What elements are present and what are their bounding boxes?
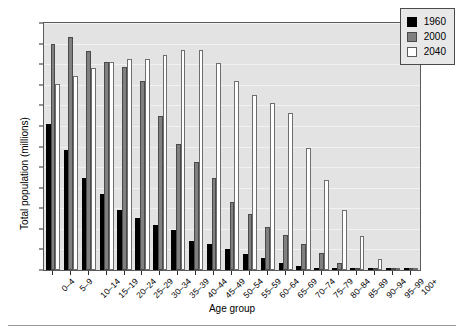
- bar-2040-55-59: [252, 95, 257, 270]
- bar-group: [277, 23, 295, 270]
- bar-2040-70-74: [306, 148, 311, 270]
- plot-area: [43, 22, 421, 271]
- x-tick-label: 35–39: [188, 277, 211, 300]
- bar-series-container: [44, 23, 420, 270]
- bar-2040-95-99: [396, 268, 401, 270]
- x-tick-mark: [52, 271, 53, 275]
- legend-label: 2000: [424, 32, 446, 42]
- x-tick-mark: [392, 271, 393, 275]
- bar-group: [366, 23, 384, 270]
- bar-group: [223, 23, 241, 270]
- bar-group: [348, 23, 366, 270]
- chart-page: Total population (millions) 012345678910…: [0, 0, 464, 331]
- bar-2040-30-34: [163, 55, 168, 270]
- bar-2040-65-69: [288, 113, 293, 270]
- population-by-age-group-chart: Total population (millions) 012345678910…: [0, 0, 464, 331]
- x-tick-mark: [141, 271, 142, 275]
- bar-2040-75-79: [324, 180, 329, 270]
- x-tick-mark: [70, 271, 71, 275]
- bar-2040-90-94: [378, 259, 383, 270]
- x-tick-label: 90–94: [385, 277, 408, 300]
- legend-item-2000[interactable]: 2000: [407, 29, 446, 44]
- x-tick-mark: [195, 271, 196, 275]
- x-tick-mark: [177, 271, 178, 275]
- x-tick-label: 10–14: [99, 277, 122, 300]
- bottom-divider: [8, 325, 456, 326]
- bar-group: [313, 23, 331, 270]
- x-tick-mark: [106, 271, 107, 275]
- x-tick-label: 5–9: [78, 277, 94, 293]
- bar-group: [259, 23, 277, 270]
- bar-2040-80-84: [342, 210, 347, 270]
- x-tick-mark: [303, 271, 304, 275]
- series-2040-swatch: [407, 47, 417, 57]
- x-tick-label: 0–4: [60, 277, 76, 293]
- bar-2040-10-14: [91, 68, 96, 270]
- x-tick-mark: [374, 271, 375, 275]
- x-tick-mark: [356, 271, 357, 275]
- legend-item-2040[interactable]: 2040: [407, 44, 446, 59]
- bar-2040-20-24: [127, 59, 132, 270]
- x-tick-mark: [88, 271, 89, 275]
- legend-label: 2040: [424, 47, 446, 57]
- bar-group: [205, 23, 223, 270]
- legend-label: 1960: [424, 17, 446, 27]
- bar-group: [80, 23, 98, 270]
- bar-2040-50-54: [234, 81, 239, 270]
- bar-2040-60-64: [270, 103, 275, 270]
- series-2000-swatch: [407, 32, 417, 42]
- x-tick-mark: [231, 271, 232, 275]
- bar-2040-45-49: [216, 63, 221, 270]
- bar-2040-35-39: [181, 50, 186, 270]
- bar-group: [295, 23, 313, 270]
- bar-group: [134, 23, 152, 270]
- bar-group: [330, 23, 348, 270]
- x-axis: 0–45–910–1415–1920–2425–2930–3435–3940–4…: [43, 271, 421, 326]
- x-tick-mark: [321, 271, 322, 275]
- legend: 196020002040: [400, 8, 455, 65]
- x-tick-mark: [213, 271, 214, 275]
- bar-2040-5-9: [73, 76, 78, 271]
- series-1960-swatch: [407, 17, 417, 27]
- bar-group: [44, 23, 62, 270]
- bar-2040-25-29: [145, 59, 150, 270]
- bar-group: [187, 23, 205, 270]
- bar-group: [151, 23, 169, 270]
- bar-2040-40-44: [199, 50, 204, 270]
- bar-2040-15-19: [109, 62, 114, 270]
- x-tick-mark: [338, 271, 339, 275]
- bar-2040-85-89: [360, 236, 365, 270]
- x-tick-mark: [267, 271, 268, 275]
- y-axis-label: Total population (millions): [19, 64, 30, 284]
- x-tick-mark: [159, 271, 160, 275]
- bar-group: [169, 23, 187, 270]
- x-tick-mark: [124, 271, 125, 275]
- y-axis: Total population (millions) 012345678910…: [0, 22, 43, 271]
- bar-group: [62, 23, 80, 270]
- x-tick-mark: [249, 271, 250, 275]
- bar-group: [241, 23, 259, 270]
- x-axis-label: Age group: [43, 303, 421, 314]
- x-tick-mark: [285, 271, 286, 275]
- bar-group: [98, 23, 116, 270]
- legend-item-1960[interactable]: 1960: [407, 14, 446, 29]
- x-tick-mark: [410, 271, 411, 275]
- bar-group: [116, 23, 134, 270]
- bar-2040-0-4: [55, 84, 60, 270]
- bar-2040-100+: [413, 268, 418, 270]
